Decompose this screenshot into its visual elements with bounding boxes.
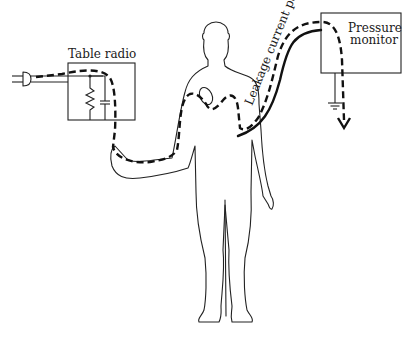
table-radio-label: Table radio [68, 47, 136, 61]
pressure-monitor-label-line2: monitor [350, 33, 398, 47]
resistor-icon [86, 76, 94, 120]
leakage-current-diagram: Table radio Pressure monitor [0, 0, 411, 343]
ground-icon [328, 73, 342, 109]
table-radio: Table radio [68, 47, 136, 120]
leakage-current-path [36, 22, 344, 162]
leakage-path-label: Leakage current path [242, 0, 305, 107]
